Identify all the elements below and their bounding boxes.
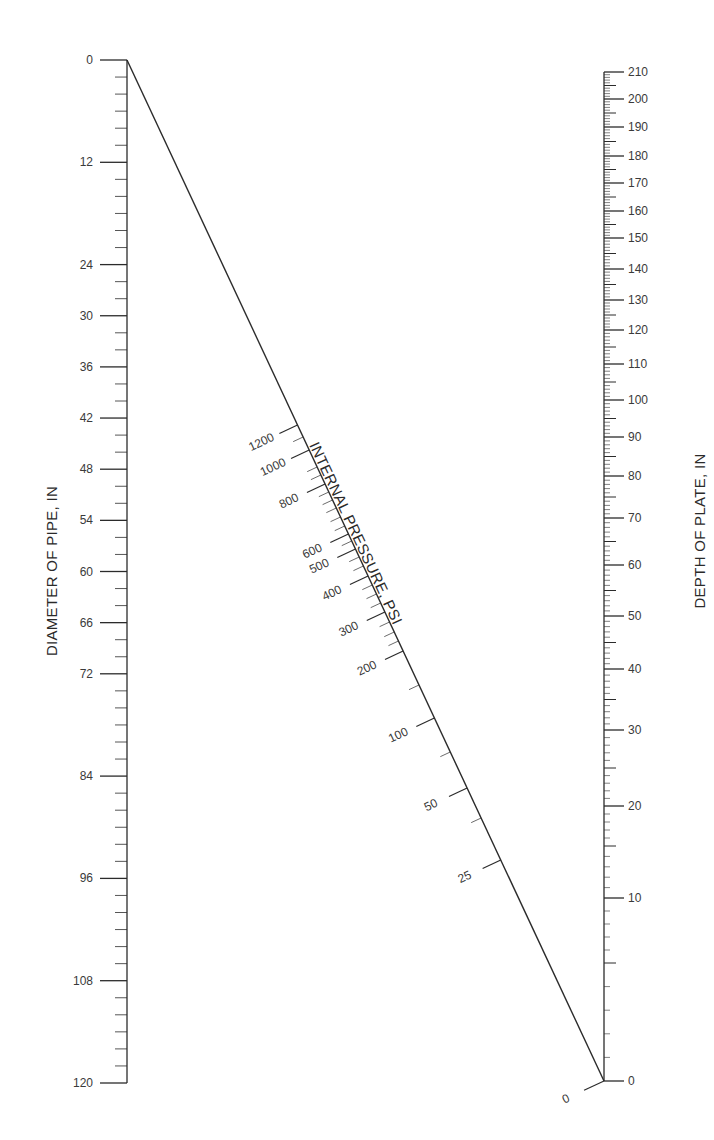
depth-tick-label: 180 [628, 149, 648, 163]
diameter-tick-label: 84 [80, 769, 94, 783]
pressure-minor-tick [362, 585, 372, 590]
pressure-minor-tick [384, 632, 394, 637]
depth-tick-label: 190 [628, 120, 648, 134]
pressure-tick-label: 1200 [246, 430, 276, 454]
depth-tick-label: 80 [628, 469, 642, 483]
depth-tick-label: 140 [628, 262, 648, 276]
depth-tick-label: 0 [628, 1074, 635, 1088]
pressure-major-tick [279, 425, 297, 433]
diameter-tick-label: 48 [80, 462, 94, 476]
pressure-major-tick [385, 651, 403, 659]
pressure-minor-tick [307, 467, 317, 472]
pressure-major-tick [330, 534, 348, 542]
depth-tick-label: 90 [628, 430, 642, 444]
pressure-minor-tick [331, 517, 341, 522]
depth-tick-label: 210 [628, 65, 648, 79]
pressure-major-tick [291, 450, 309, 458]
pressure-tick-label: 100 [386, 724, 410, 745]
nomograph-canvas: 0122430364248546066728496108120 21020019… [0, 0, 714, 1140]
pressure-major-tick [367, 612, 385, 620]
pressure-tick-label: 200 [355, 657, 379, 678]
pressure-major-tick [416, 718, 434, 726]
pressure-major-tick [337, 549, 355, 557]
pressure-minor-tick [353, 566, 363, 571]
depth-tick-label: 100 [628, 393, 648, 407]
diameter-tick-label: 24 [80, 258, 94, 272]
pressure-minor-tick [342, 541, 352, 546]
diameter-tick-label: 66 [80, 616, 94, 630]
diameter-tick-label: 96 [80, 871, 94, 885]
pressure-tick-label: 25 [456, 868, 474, 886]
pressure-minor-tick [319, 492, 329, 497]
pressure-minor-tick [367, 594, 377, 599]
diameter-tick-label: 108 [73, 974, 93, 988]
nomograph: 0122430364248546066728496108120 21020019… [0, 0, 714, 1140]
depth-tick-label: 10 [628, 891, 642, 905]
pressure-minor-tick [380, 622, 390, 627]
diameter-axis-title: DIAMETER OF PIPE, IN [43, 486, 60, 656]
depth-tick-label: 70 [628, 511, 642, 525]
pressure-minor-tick [371, 603, 381, 608]
pressure-minor-tick [335, 526, 345, 531]
depth-axis: 2102001901801701601501401301201101009080… [604, 65, 648, 1088]
depth-tick-label: 110 [628, 357, 647, 371]
pressure-tick-label: 50 [422, 796, 440, 814]
diameter-tick-label: 42 [80, 411, 94, 425]
diameter-tick-label: 36 [80, 360, 94, 374]
pressure-tick-label: 400 [320, 582, 344, 603]
depth-tick-label: 50 [628, 609, 642, 623]
diameter-tick-label: 60 [80, 565, 94, 579]
diameter-tick-label: 0 [86, 53, 93, 67]
depth-tick-label: 40 [628, 662, 642, 676]
pressure-major-tick [483, 860, 501, 868]
pressure-minor-tick [471, 818, 481, 823]
pressure-tick-label: 800 [277, 490, 301, 511]
depth-tick-label: 160 [628, 204, 648, 218]
depth-tick-label: 150 [628, 231, 648, 245]
pressure-minor-tick [440, 752, 450, 757]
diameter-tick-label: 120 [73, 1076, 93, 1090]
depth-tick-label: 60 [628, 558, 642, 572]
pressure-axis: 1200100080060050040030020010050250 [127, 60, 604, 1107]
pressure-major-tick [449, 788, 467, 796]
pressure-axis-title: INTERNAL PRESSURE, PSI [306, 439, 406, 627]
diameter-axis: 0122430364248546066728496108120 [73, 53, 127, 1090]
pressure-minor-tick [409, 685, 419, 690]
pressure-minor-tick [311, 475, 321, 480]
diameter-tick-label: 54 [80, 513, 94, 527]
depth-axis-title: DEPTH OF PLATE, IN [691, 453, 708, 608]
depth-tick-label: 200 [628, 92, 648, 106]
depth-tick-label: 30 [628, 723, 642, 737]
pressure-minor-tick [293, 437, 303, 442]
pressure-major-tick [584, 1081, 604, 1090]
pressure-tick-label: 0 [560, 1091, 572, 1107]
pressure-major-tick [307, 484, 325, 492]
pressure-minor-tick [323, 500, 333, 505]
depth-tick-label: 120 [628, 323, 648, 337]
depth-tick-label: 130 [628, 293, 648, 307]
depth-tick-label: 170 [628, 176, 648, 190]
pressure-minor-tick [388, 641, 398, 646]
pressure-major-tick [350, 576, 368, 584]
pressure-minor-tick [349, 557, 359, 562]
pressure-minor-tick [326, 508, 336, 513]
diameter-tick-label: 12 [80, 155, 94, 169]
diameter-tick-label: 72 [80, 667, 94, 681]
depth-tick-label: 20 [628, 799, 642, 813]
diameter-tick-label: 30 [80, 309, 94, 323]
pressure-tick-label: 300 [337, 618, 361, 639]
pressure-tick-label: 1000 [258, 455, 288, 479]
